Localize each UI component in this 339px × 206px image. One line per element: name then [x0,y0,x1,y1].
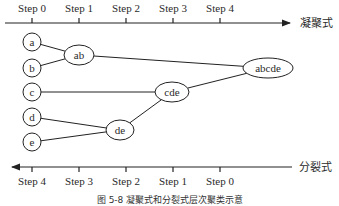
edge-a-ab [41,44,65,51]
cluster-node-b: b [23,59,41,77]
cluster-node-d: d [23,108,41,126]
figure-caption: 图 5-8 凝聚式和分裂式层次聚类示意 [97,194,243,205]
cluster-node-e: e [23,133,41,151]
cluster-node-a: a [23,33,41,51]
bottom-step-label: Step 0 [206,175,234,187]
divisive-label: 分裂式 [299,161,332,174]
edge-b-ab [41,59,65,66]
bottom-step-label: Step 3 [65,175,93,187]
cluster-node-c: c [23,83,41,101]
cluster-node-de: de [106,120,134,140]
edge-ab-abcde [94,56,243,66]
node-label: ab [74,49,85,61]
top-step-label: Step 3 [159,2,187,14]
cluster-node-abcde: abcde [243,58,293,78]
node-label: d [29,111,35,123]
node-label: abcde [255,62,281,74]
edge-de-cde [130,100,162,123]
edge-cde-abcde [188,73,247,88]
node-label: de [115,124,126,136]
top-step-label: Step 2 [112,2,140,14]
node-label: e [30,136,35,148]
node-label: cde [164,86,179,98]
clustering-diagram: Step 0Step 1Step 2Step 3Step 4 凝聚式 Step … [0,0,339,206]
cluster-node-ab: ab [64,45,94,65]
bottom-step-label: Step 2 [112,175,140,187]
bottom-step-label: Step 1 [159,175,187,187]
edge-d-de [41,118,106,128]
node-label: a [30,36,35,48]
edge-e-de [41,132,106,141]
top-step-label: Step 4 [206,2,234,14]
node-label: b [29,62,35,74]
agglomerative-axis: Step 0Step 1Step 2Step 3Step 4 凝聚式 [5,2,333,30]
agglomerative-label: 凝聚式 [300,16,333,30]
node-label: c [30,86,35,98]
cluster-node-cde: cde [155,82,189,102]
divisive-axis: Step 4Step 3Step 2Step 1Step 0 分裂式 [12,161,332,187]
top-step-label: Step 1 [65,2,93,14]
bottom-step-label: Step 4 [18,175,46,187]
top-step-label: Step 0 [18,2,46,14]
